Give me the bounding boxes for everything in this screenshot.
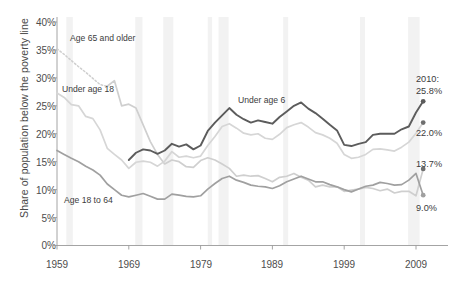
endpoint-dot-under-age-6 (421, 99, 426, 104)
callout-value-under18: 22.0% (416, 128, 442, 139)
endpoint-dot-age-18-to-64 (421, 193, 426, 198)
series-lines (57, 49, 423, 199)
recession-band-6 (360, 17, 365, 246)
series-label-under-age-18: Under age 18 (62, 84, 114, 94)
recession-band-0 (66, 17, 72, 246)
callout-year-under6: 2010: (416, 74, 439, 85)
recession-band-4 (219, 17, 229, 246)
callout-value-under6: 25.8% (416, 86, 442, 97)
endpoint-dots (421, 99, 426, 198)
recession-bands (66, 17, 419, 246)
endpoint-dot-under-age-18 (421, 120, 426, 125)
recession-band-2 (163, 17, 173, 246)
series-line-dashed-age-65-and-older (57, 49, 107, 86)
callout-value-18to64: 9.0% (416, 203, 437, 214)
plot-area (0, 0, 456, 281)
callout-value-65plus: 13.7% (416, 159, 442, 170)
series-label-age-18-to-64: Age 18 to 64 (64, 195, 113, 205)
recession-band-1 (135, 17, 142, 246)
axis-spine (57, 17, 448, 246)
series-label-age-65-and-older: Age 65 and older (70, 33, 135, 43)
series-label-under-age-6: Under age 6 (238, 95, 285, 105)
poverty-rate-line-chart: Share of population below the poverty li… (0, 0, 456, 281)
